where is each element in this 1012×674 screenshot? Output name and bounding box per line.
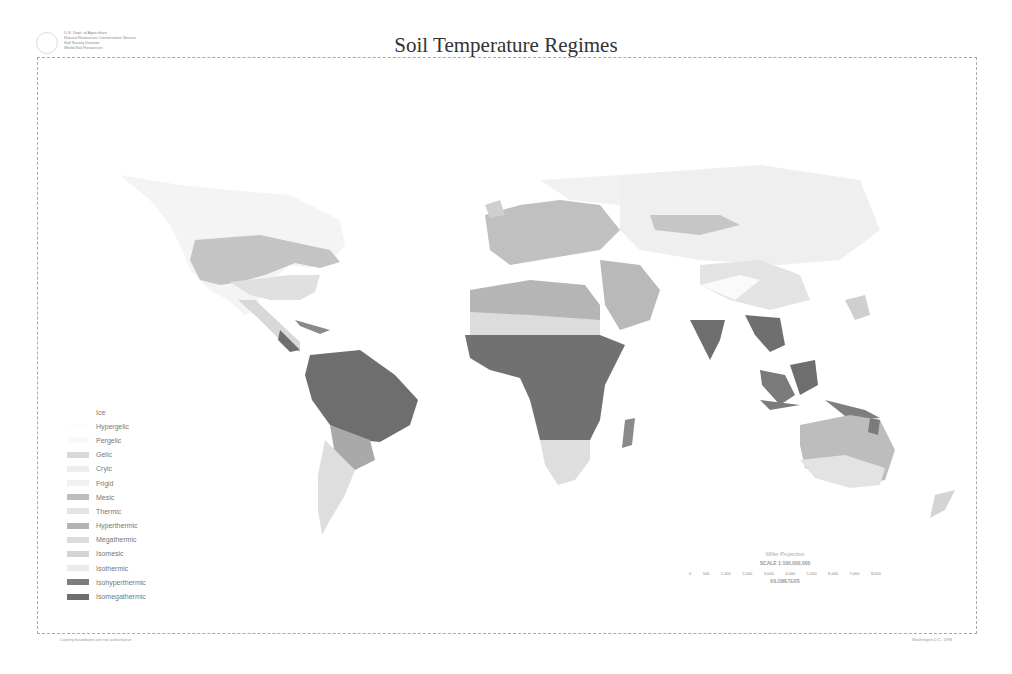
legend-swatch (67, 508, 89, 514)
legend-label: Cryic (96, 465, 112, 472)
legend-swatch (67, 523, 89, 529)
scale-tick: 8,000 (871, 571, 881, 576)
legend-item-hypergelic: Hypergelic (67, 419, 146, 433)
legend-label: Isohyperthermic (96, 579, 146, 586)
australia (800, 415, 955, 518)
legend-swatch (67, 565, 89, 571)
legend-item-hyperthermic: Hyperthermic (67, 519, 146, 533)
legend-swatch (67, 452, 89, 458)
legend-swatch (67, 551, 89, 557)
scale-tick: 0 (689, 571, 691, 576)
legend-label: Isomesic (96, 550, 124, 557)
legend-label: Isomegathermic (96, 593, 146, 600)
legend-item-isomesic: Isomesic (67, 547, 146, 561)
legend-item-cryic: Cryic (67, 462, 146, 476)
legend-label: Thermic (96, 508, 121, 515)
scale-tick: 6,000 (828, 571, 838, 576)
projection-label: Miller Projection (685, 551, 885, 557)
legend-swatch (67, 466, 89, 472)
scale-tick: 2,000 (742, 571, 752, 576)
legend-swatch (67, 594, 89, 600)
legend-swatch (67, 437, 89, 443)
legend-item-frigid: Frigid (67, 476, 146, 490)
legend-label: Ice (96, 409, 105, 416)
footer-note: Country boundaries are not authoritative (60, 637, 131, 642)
map-title: Soil Temperature Regimes (0, 33, 1012, 58)
north-america (120, 175, 345, 352)
legend-item-gelic: Gelic (67, 448, 146, 462)
scale-tick: 5,000 (807, 571, 817, 576)
scale-ticks: 0 500 1,000 2,000 3,000 4,000 5,000 6,00… (685, 571, 885, 576)
scale-tick: 4,000 (785, 571, 795, 576)
middle-east (600, 260, 660, 330)
legend-item-isothermic: Isothermic (67, 561, 146, 575)
legend-swatch (67, 537, 89, 543)
scale-tick: 3,000 (764, 571, 774, 576)
legend-item-isohyperthermic: Isohyperthermic (67, 575, 146, 589)
legend-swatch (67, 423, 89, 429)
legend-label: Frigid (96, 480, 114, 487)
world-map (37, 57, 977, 634)
legend-label: Hypergelic (96, 423, 129, 430)
legend-item-thermic: Thermic (67, 504, 146, 518)
scale-ratio: SCALE 1:100,000,000 (685, 560, 885, 566)
scale-tick: 7,000 (850, 571, 860, 576)
legend-label: Pergelic (96, 437, 121, 444)
legend-label: Hyperthermic (96, 522, 138, 529)
legend-swatch (67, 494, 89, 500)
legend-label: Megathermic (96, 536, 136, 543)
scale-tick: 1,000 (721, 571, 731, 576)
legend-item-megathermic: Megathermic (67, 533, 146, 547)
scale-unit: KILOMETERS (685, 579, 885, 584)
legend-swatch (67, 409, 89, 415)
legend-item-pergelic: Pergelic (67, 433, 146, 447)
scale-tick: 500 (703, 571, 710, 576)
legend-item-ice: Ice (67, 405, 146, 419)
legend-label: Mesic (96, 494, 114, 501)
legend-swatch (67, 579, 89, 585)
legend: Ice Hypergelic Pergelic Gelic Cryic Frig… (67, 405, 146, 604)
south-america (305, 350, 418, 535)
scale-block: Miller Projection SCALE 1:100,000,000 0 … (685, 551, 885, 584)
legend-swatch (67, 480, 89, 486)
legend-item-isomegathermic: Isomegathermic (67, 589, 146, 603)
footer-credit: Washington D.C. 1998 (912, 637, 952, 642)
legend-label: Isothermic (96, 565, 128, 572)
legend-item-mesic: Mesic (67, 490, 146, 504)
legend-label: Gelic (96, 451, 112, 458)
